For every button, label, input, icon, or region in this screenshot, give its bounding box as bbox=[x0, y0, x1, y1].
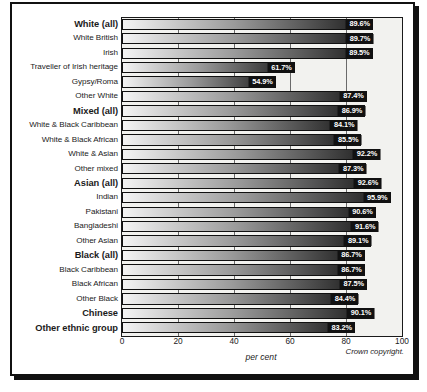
bar[interactable] bbox=[122, 134, 361, 145]
bar[interactable] bbox=[122, 19, 373, 30]
bar-track: 89.5% bbox=[122, 48, 402, 59]
category-label: White & Black African bbox=[0, 133, 118, 147]
bar-track: 90.6% bbox=[122, 207, 402, 218]
bar-track: 86.7% bbox=[122, 264, 402, 275]
chart-row: Gypsy/Roma54.9% bbox=[12, 75, 413, 89]
category-label: Other mixed bbox=[0, 162, 118, 176]
bar-track: 83.2% bbox=[122, 322, 402, 333]
copyright-note: Crown copyright. bbox=[346, 347, 405, 356]
bar-value-label: 89.7% bbox=[346, 34, 373, 44]
category-label: Bangladeshi bbox=[0, 219, 118, 233]
bar[interactable] bbox=[122, 293, 358, 304]
bar[interactable] bbox=[122, 149, 380, 160]
x-tick-label: 100 bbox=[395, 336, 409, 346]
chart-row: Black African87.5% bbox=[12, 277, 413, 291]
bar-track: 87.3% bbox=[122, 163, 402, 174]
category-label: Gypsy/Roma bbox=[0, 75, 118, 89]
chart-row: Mixed (all)86.9% bbox=[12, 104, 413, 118]
x-tick-label: 20 bbox=[173, 336, 182, 346]
bar[interactable] bbox=[122, 120, 357, 131]
bar[interactable] bbox=[122, 221, 378, 232]
x-tick-label: 40 bbox=[229, 336, 238, 346]
bar-value-label: 91.6% bbox=[351, 222, 378, 232]
category-label: White & Black Caribbean bbox=[0, 118, 118, 132]
category-label: Black Caribbean bbox=[0, 263, 118, 277]
bar-value-label: 87.4% bbox=[339, 91, 366, 101]
bar[interactable] bbox=[122, 178, 381, 189]
category-label: Irish bbox=[0, 46, 118, 60]
category-label: Other ethnic group bbox=[0, 321, 118, 335]
bar-value-label: 90.1% bbox=[347, 308, 374, 318]
chart-row: Other mixed87.3% bbox=[12, 162, 413, 176]
chart-rows: White (all)89.6%White British89.7%Irish8… bbox=[12, 17, 413, 335]
chart-row: Other White87.4% bbox=[12, 89, 413, 103]
bar-track: 89.1% bbox=[122, 235, 402, 246]
bar-track: 84.4% bbox=[122, 293, 402, 304]
bar-value-label: 84.1% bbox=[330, 120, 357, 130]
bar-value-label: 87.5% bbox=[340, 279, 367, 289]
bar-value-label: 95.9% bbox=[363, 193, 390, 203]
bar[interactable] bbox=[122, 33, 373, 44]
bar-value-label: 61.7% bbox=[267, 63, 294, 73]
category-label: Black (all) bbox=[0, 248, 118, 262]
figure-frame: White (all)89.6%White British89.7%Irish8… bbox=[10, 2, 415, 376]
chart-row: White (all)89.6% bbox=[12, 17, 413, 31]
bar-track: 54.9% bbox=[122, 76, 402, 87]
category-label: White British bbox=[0, 31, 118, 45]
bar-track: 89.7% bbox=[122, 33, 402, 44]
bar-track: 89.6% bbox=[122, 19, 402, 30]
category-label: Other Asian bbox=[0, 234, 118, 248]
x-tick-label: 60 bbox=[285, 336, 294, 346]
bar-chart: White (all)89.6%White British89.7%Irish8… bbox=[12, 4, 413, 374]
bar-track: 86.7% bbox=[122, 250, 402, 261]
bar-value-label: 89.1% bbox=[344, 236, 371, 246]
chart-row: White British89.7% bbox=[12, 31, 413, 45]
bar-track: 84.1% bbox=[122, 120, 402, 131]
bar[interactable] bbox=[122, 207, 376, 218]
chart-row: Chinese90.1% bbox=[12, 306, 413, 320]
bar-track: 87.5% bbox=[122, 279, 402, 290]
bar-value-label: 86.9% bbox=[338, 106, 365, 116]
bar[interactable] bbox=[122, 322, 355, 333]
chart-row: Pakistani90.6% bbox=[12, 205, 413, 219]
category-label: Traveller of Irish heritage bbox=[0, 60, 118, 74]
bar[interactable] bbox=[122, 235, 371, 246]
bar-value-label: 92.2% bbox=[353, 149, 380, 159]
bar-value-label: 89.6% bbox=[345, 19, 372, 29]
chart-row: Bangladeshi91.6% bbox=[12, 219, 413, 233]
bar[interactable] bbox=[122, 264, 365, 275]
bar-value-label: 84.4% bbox=[331, 294, 358, 304]
chart-row: Traveller of Irish heritage61.7% bbox=[12, 60, 413, 74]
bar[interactable] bbox=[122, 163, 366, 174]
chart-row: Other Asian89.1% bbox=[12, 234, 413, 248]
category-label: Pakistani bbox=[0, 205, 118, 219]
bar-track: 61.7% bbox=[122, 62, 402, 73]
category-label: Mixed (all) bbox=[0, 104, 118, 118]
chart-row: Other Black84.4% bbox=[12, 292, 413, 306]
bar-value-label: 54.9% bbox=[248, 77, 275, 87]
bar-track: 92.6% bbox=[122, 178, 402, 189]
category-label: Other White bbox=[0, 89, 118, 103]
bar-value-label: 86.7% bbox=[337, 265, 364, 275]
bar[interactable] bbox=[122, 279, 367, 290]
category-label: White & Asian bbox=[0, 147, 118, 161]
x-tick-label: 0 bbox=[120, 336, 125, 346]
bar[interactable] bbox=[122, 192, 391, 203]
bar[interactable] bbox=[122, 308, 374, 319]
bar[interactable] bbox=[122, 91, 367, 102]
bar-value-label: 86.7% bbox=[337, 250, 364, 260]
chart-row: Black (all)86.7% bbox=[12, 248, 413, 262]
x-tick-label: 80 bbox=[341, 336, 350, 346]
frame-shadow-bottom bbox=[14, 376, 419, 380]
category-label: Other Black bbox=[0, 292, 118, 306]
bar-value-label: 85.5% bbox=[334, 135, 361, 145]
bar[interactable] bbox=[122, 250, 365, 261]
bar-track: 95.9% bbox=[122, 192, 402, 203]
chart-row: White & Black Caribbean84.1% bbox=[12, 118, 413, 132]
bar[interactable] bbox=[122, 105, 365, 116]
bar-value-label: 92.6% bbox=[354, 178, 381, 188]
bar[interactable] bbox=[122, 48, 373, 59]
chart-row: White & Black African85.5% bbox=[12, 133, 413, 147]
bar-track: 85.5% bbox=[122, 134, 402, 145]
category-label: White (all) bbox=[0, 17, 118, 31]
